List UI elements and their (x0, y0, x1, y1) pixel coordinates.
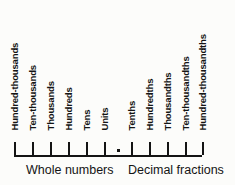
place-value-label: Tens (81, 109, 91, 130)
place-value-label: Hundred-thousands (9, 42, 19, 130)
axis-tick (149, 142, 151, 155)
axis-tick (185, 142, 187, 155)
axis-tick (86, 142, 88, 155)
place-value-label: Ten-thousands (27, 65, 37, 130)
place-value-label: Ten-thousandths (180, 56, 190, 130)
axis-tick (32, 142, 34, 155)
decimal-point-marker (117, 149, 120, 152)
axis-tick (68, 142, 70, 155)
axis-tick (104, 142, 106, 155)
place-value-label: Thousandths (162, 72, 172, 130)
axis-tick (50, 142, 52, 155)
group-caption: Decimal fractions (128, 163, 224, 177)
axis-tick (14, 142, 16, 155)
place-value-label: Thousands (45, 81, 55, 130)
axis-tick (202, 142, 204, 155)
place-value-label: Hundred-thousandths (197, 34, 207, 130)
place-value-label: Units (99, 107, 109, 130)
place-value-label: Tenths (126, 100, 136, 130)
axis-tick (131, 142, 133, 155)
axis-tick (167, 142, 169, 155)
place-value-diagram: Hundred-thousandsTen-thousandsThousandsH… (0, 0, 235, 185)
number-line-axis (14, 155, 202, 157)
place-value-label: Hundredths (144, 78, 154, 130)
group-caption: Whole numbers (26, 163, 114, 177)
place-value-label: Hundreds (63, 87, 73, 130)
